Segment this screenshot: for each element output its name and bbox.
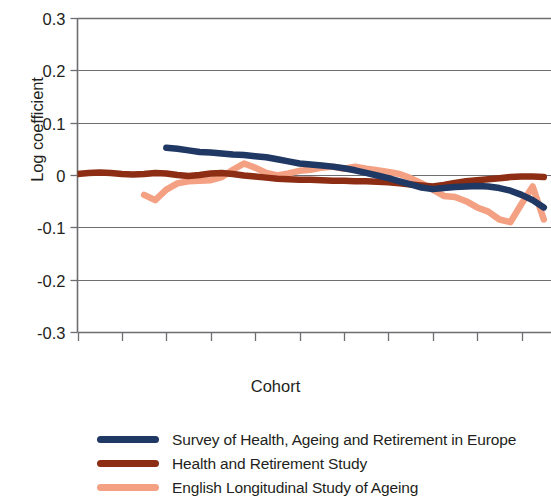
- y-axis-ticks: [71, 19, 78, 333]
- x-axis-title: Cohort: [0, 377, 551, 396]
- legend-label: Health and Retirement Study: [172, 455, 367, 472]
- data-series: [78, 148, 544, 222]
- legend-label: Survey of Health, Ageing and Retirement …: [172, 431, 516, 448]
- legend-label: English Longitudinal Study of Ageing: [172, 479, 418, 496]
- legend-swatch: [97, 484, 159, 491]
- legend-item[interactable]: Health and Retirement Study: [97, 451, 551, 475]
- chart-figure: 0.30.20.10-0.1-0.2-0.3 19161920192419281…: [0, 0, 551, 501]
- legend-item[interactable]: Survey of Health, Ageing and Retirement …: [97, 427, 551, 451]
- plot-area: 0.30.20.10-0.1-0.2-0.3 19161920192419281…: [0, 0, 551, 345]
- svg-text:-0.2: -0.2: [37, 272, 65, 290]
- legend-swatch: [97, 436, 159, 443]
- line-chart-svg: 0.30.20.10-0.1-0.2-0.3 19161920192419281…: [0, 0, 551, 345]
- chart-legend: Survey of Health, Ageing and Retirement …: [97, 427, 551, 499]
- y-axis-title: Log coefficient: [28, 30, 47, 230]
- svg-text:-0.3: -0.3: [37, 324, 65, 342]
- legend-swatch: [97, 460, 159, 467]
- x-axis-ticks: [79, 332, 523, 341]
- legend-item[interactable]: English Longitudinal Study of Ageing: [97, 475, 551, 499]
- svg-text:0: 0: [56, 167, 65, 185]
- svg-text:0.3: 0.3: [43, 10, 66, 28]
